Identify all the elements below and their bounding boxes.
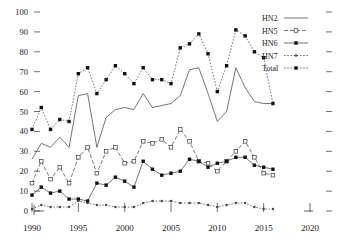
- x-tick-label: 2020: [301, 223, 320, 233]
- data-point: [104, 78, 107, 81]
- data-point: [262, 171, 266, 175]
- data-point: [123, 161, 127, 165]
- series-hn5: [30, 128, 275, 185]
- data-point: [114, 64, 117, 67]
- data-point: [169, 82, 172, 85]
- data-point: [225, 64, 228, 67]
- y-tick-label: 40: [20, 126, 29, 136]
- data-point: [225, 160, 228, 163]
- data-point: [141, 140, 145, 144]
- data-point: [95, 171, 99, 175]
- x-tick-label: 2000: [116, 223, 135, 233]
- data-point: [49, 191, 52, 194]
- data-point: [77, 200, 79, 202]
- data-point: [77, 155, 81, 159]
- series-hn2: [32, 68, 273, 160]
- y-tick-label: 50: [20, 107, 29, 117]
- chart-legend: HN2HN5HN6HN7Total: [262, 14, 308, 73]
- series-line-hn6: [32, 157, 273, 201]
- data-point: [77, 72, 80, 75]
- y-tick-label: 20: [20, 166, 29, 176]
- data-point: [253, 50, 256, 53]
- data-point: [271, 168, 274, 171]
- data-point: [105, 204, 107, 206]
- data-point: [197, 32, 200, 35]
- data-point: [206, 166, 209, 169]
- data-point: [169, 146, 173, 150]
- data-point: [188, 202, 190, 204]
- data-point: [123, 179, 126, 182]
- data-point: [169, 171, 172, 174]
- y-tick-label: 100: [15, 7, 28, 17]
- legend-label-hn6: HN6: [262, 39, 278, 48]
- data-point: [160, 138, 164, 142]
- data-point: [114, 206, 116, 208]
- data-point: [142, 66, 145, 69]
- y-tick-label: 80: [20, 47, 29, 57]
- data-point: [86, 146, 90, 150]
- data-point: [49, 206, 51, 208]
- x-tick-label: 1995: [69, 223, 88, 233]
- data-point: [271, 102, 274, 105]
- data-point: [86, 202, 88, 204]
- data-point: [142, 160, 145, 163]
- y-tick-label: 0: [24, 206, 28, 216]
- line-chart: 0102030405060708090100 19901995200020052…: [0, 0, 338, 245]
- data-point: [161, 200, 163, 202]
- data-point: [216, 206, 218, 208]
- legend-marker: [294, 29, 298, 33]
- right-axis-ticks: [326, 12, 332, 211]
- y-tick-label: 10: [20, 186, 29, 196]
- x-tick-label: 2005: [162, 223, 181, 233]
- data-point: [67, 120, 70, 123]
- data-point: [160, 173, 163, 176]
- data-point: [216, 90, 219, 93]
- data-point: [40, 204, 42, 206]
- legend-label-hn7: HN7: [262, 52, 278, 61]
- data-point: [151, 168, 154, 171]
- data-point: [188, 158, 191, 161]
- data-point: [68, 206, 70, 208]
- data-point: [40, 185, 43, 188]
- data-point: [58, 189, 61, 192]
- data-point: [58, 118, 61, 121]
- data-point: [206, 52, 209, 55]
- data-point: [96, 204, 98, 206]
- data-point: [132, 159, 136, 163]
- x-tick-label: 1990: [23, 223, 42, 233]
- data-point: [243, 156, 246, 159]
- data-point: [151, 78, 154, 81]
- data-point: [58, 165, 62, 169]
- data-point: [30, 181, 34, 185]
- data-point: [206, 161, 210, 165]
- legend-marker: [295, 54, 297, 56]
- y-tick-label: 70: [20, 67, 29, 77]
- data-point: [30, 128, 33, 131]
- data-point: [39, 159, 43, 163]
- data-point: [262, 166, 265, 169]
- data-point: [114, 175, 117, 178]
- data-point: [197, 160, 200, 163]
- data-point: [49, 177, 53, 181]
- data-point: [49, 128, 52, 131]
- data-point: [225, 204, 227, 206]
- data-point: [234, 28, 237, 31]
- data-point: [104, 183, 107, 186]
- legend-marker: [294, 41, 297, 44]
- data-point: [216, 162, 219, 165]
- data-point: [216, 169, 220, 173]
- x-tick-label: 2015: [255, 223, 274, 233]
- y-tick-label: 60: [20, 87, 29, 97]
- data-point: [179, 170, 182, 173]
- data-point: [198, 202, 200, 204]
- data-point: [179, 46, 182, 49]
- data-point: [243, 34, 246, 37]
- x-tick-label: 2010: [208, 223, 227, 233]
- data-point: [114, 146, 118, 150]
- data-point: [132, 82, 135, 85]
- series-hn7: [31, 200, 274, 210]
- data-point: [67, 181, 71, 185]
- chart-canvas: 0102030405060708090100 19901995200020052…: [0, 0, 338, 245]
- legend-label-hn2: HN2: [262, 14, 278, 23]
- data-point: [160, 78, 163, 81]
